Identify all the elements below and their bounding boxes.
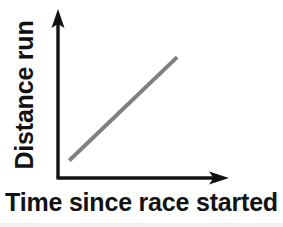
scan-edge-artifact	[0, 223, 283, 227]
data-line-distance-run	[69, 57, 177, 160]
x-axis-label: Time since race started	[0, 190, 283, 215]
y-axis-label: Distance run	[12, 0, 46, 190]
chart-figure: Distance run Time since race started	[0, 0, 283, 227]
